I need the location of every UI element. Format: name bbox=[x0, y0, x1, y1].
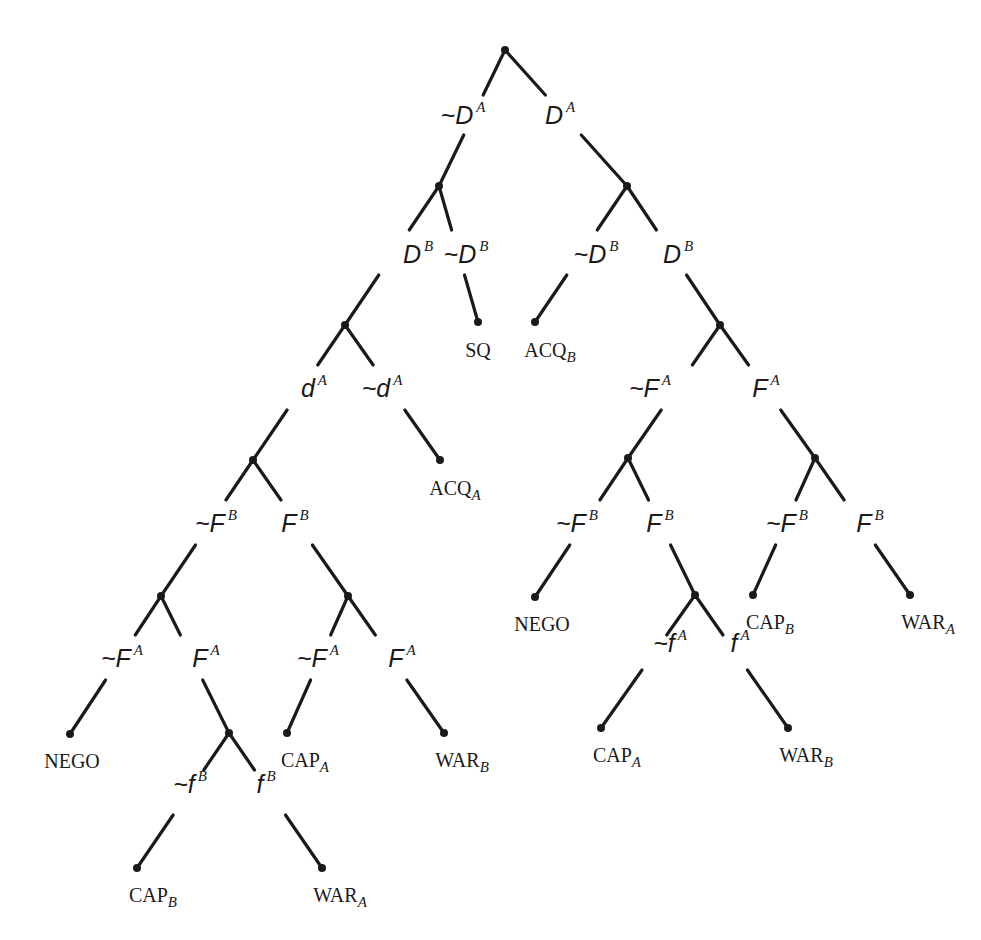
tree-edge bbox=[345, 275, 379, 325]
tree-edge bbox=[161, 596, 180, 635]
outcome-label: ACQB bbox=[524, 340, 575, 365]
move-label: FA bbox=[192, 643, 219, 671]
outcome-text: CAP bbox=[281, 749, 320, 771]
move-symbol: f bbox=[256, 770, 263, 798]
outcome-subscript: A bbox=[946, 621, 955, 637]
move-symbol: ~F bbox=[195, 509, 225, 537]
player-superscript: B bbox=[266, 768, 275, 784]
outcome-subscript: B bbox=[480, 759, 489, 775]
tree-edge bbox=[407, 680, 444, 733]
tree-edge bbox=[348, 596, 375, 635]
move-symbol: F bbox=[281, 509, 296, 537]
move-symbol: ~D bbox=[574, 240, 607, 268]
outcome-label: ACQA bbox=[429, 478, 480, 503]
tree-edge bbox=[253, 410, 287, 460]
tree-edge bbox=[439, 186, 452, 230]
move-label: FB bbox=[856, 508, 883, 536]
tree-edge bbox=[581, 135, 627, 186]
player-superscript: A bbox=[662, 372, 671, 388]
player-superscript: A bbox=[407, 642, 416, 658]
terminal-node bbox=[784, 724, 792, 732]
tree-edge bbox=[439, 135, 464, 186]
decision-node bbox=[341, 321, 349, 329]
player-superscript: B bbox=[684, 238, 693, 254]
outcome-text: ACQ bbox=[524, 339, 566, 361]
player-superscript: B bbox=[665, 507, 674, 523]
terminal-node bbox=[474, 318, 482, 326]
move-label: DB bbox=[403, 239, 433, 267]
move-symbol: ~F bbox=[766, 509, 796, 537]
tree-edge bbox=[535, 545, 570, 597]
move-symbol: ~d bbox=[362, 374, 391, 402]
outcome-label: SQ bbox=[465, 340, 491, 360]
tree-edge bbox=[483, 50, 505, 95]
outcome-text: CAP bbox=[593, 744, 632, 766]
outcome-text: WAR bbox=[435, 749, 479, 771]
outcome-text: NEGO bbox=[514, 613, 570, 635]
player-superscript: A bbox=[393, 372, 402, 388]
decision-node bbox=[344, 592, 352, 600]
terminal-node bbox=[749, 591, 757, 599]
move-symbol: ~D bbox=[444, 240, 477, 268]
decision-node bbox=[624, 454, 632, 462]
move-symbol: D bbox=[403, 240, 421, 268]
outcome-label: WARB bbox=[435, 750, 489, 775]
tree-edge bbox=[318, 325, 345, 365]
tree-edge bbox=[409, 186, 439, 230]
tree-edge bbox=[687, 275, 720, 325]
move-symbol: D bbox=[663, 240, 681, 268]
move-symbol: d bbox=[301, 374, 315, 402]
terminal-node bbox=[906, 591, 914, 599]
decision-node bbox=[157, 592, 165, 600]
outcome-text: NEGO bbox=[44, 750, 100, 772]
outcome-subscript: B bbox=[168, 894, 177, 910]
tree-edge bbox=[226, 460, 253, 500]
tree-edge bbox=[405, 410, 440, 460]
tree-edge bbox=[815, 458, 844, 500]
tree-edge bbox=[204, 733, 229, 770]
tree-edge bbox=[692, 325, 720, 365]
tree-edge bbox=[535, 275, 567, 322]
move-symbol: F bbox=[646, 509, 661, 537]
tree-edge bbox=[465, 275, 478, 322]
player-superscript: B bbox=[875, 507, 884, 523]
move-label: ~DB bbox=[444, 239, 489, 267]
move-label: ~DB bbox=[574, 239, 619, 267]
player-superscript: B bbox=[589, 507, 598, 523]
tree-edge bbox=[601, 670, 642, 728]
player-superscript: A bbox=[566, 99, 575, 115]
outcome-subscript: B bbox=[785, 621, 794, 637]
terminal-node bbox=[531, 593, 539, 601]
tree-edge bbox=[331, 596, 348, 635]
tree-edge bbox=[203, 680, 229, 733]
move-symbol: ~f bbox=[653, 629, 675, 657]
tree-edge bbox=[135, 596, 161, 635]
player-superscript: B bbox=[198, 768, 207, 784]
decision-node bbox=[716, 321, 724, 329]
move-label: dA bbox=[301, 373, 327, 401]
terminal-node bbox=[436, 456, 444, 464]
terminal-node bbox=[440, 729, 448, 737]
outcome-text: WAR bbox=[779, 744, 823, 766]
player-superscript: A bbox=[318, 372, 327, 388]
player-superscript: A bbox=[330, 642, 339, 658]
move-label: ~fB bbox=[173, 769, 207, 797]
player-superscript: A bbox=[134, 642, 143, 658]
move-symbol: F bbox=[856, 509, 871, 537]
move-symbol: f bbox=[730, 629, 737, 657]
decision-node bbox=[811, 454, 819, 462]
tree-edge bbox=[597, 186, 627, 230]
move-symbol: ~F bbox=[556, 509, 586, 537]
player-superscript: B bbox=[609, 238, 618, 254]
tree-edge bbox=[137, 815, 173, 868]
move-label: DB bbox=[663, 239, 693, 267]
move-label: FB bbox=[281, 508, 308, 536]
tree-edge bbox=[875, 545, 910, 595]
tree-edge bbox=[796, 458, 815, 500]
terminal-node bbox=[597, 724, 605, 732]
player-superscript: B bbox=[424, 238, 433, 254]
move-label: ~FB bbox=[766, 508, 808, 536]
outcome-label: CAPA bbox=[281, 750, 329, 775]
move-symbol: ~D bbox=[441, 101, 474, 129]
outcome-subscript: A bbox=[472, 487, 481, 503]
